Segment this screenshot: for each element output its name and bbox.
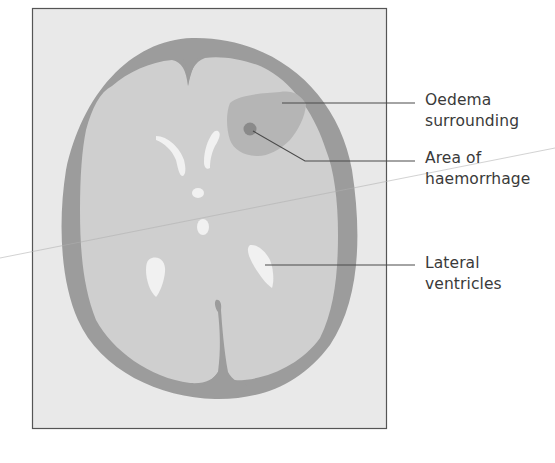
label-lateral-ventricles: Lateral ventricles — [425, 253, 502, 295]
label-oedema: Oedema surrounding — [425, 90, 519, 132]
label-haemorrhage: Area of haemorrhage — [425, 148, 530, 190]
haemorrhage-spot — [244, 123, 257, 136]
third-ventricle — [192, 188, 204, 198]
ct-brain-diagram — [0, 0, 555, 463]
fourth-ventricle — [197, 219, 209, 235]
